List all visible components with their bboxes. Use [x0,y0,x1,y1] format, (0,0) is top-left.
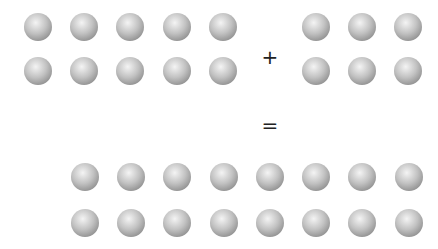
equals-sign: = [262,113,279,137]
sphere-addition-diagram: += [0,0,438,249]
right-addend-group [302,13,422,85]
sphere-icon [395,209,423,237]
sphere-icon [256,163,284,191]
sphere-icon [163,209,191,237]
sphere-icon [210,163,238,191]
sphere-icon [210,209,238,237]
plus-sign: + [262,45,279,69]
sphere-icon [256,209,284,237]
sphere-icon [348,57,376,85]
sum-group [71,163,423,237]
sphere-icon [116,13,144,41]
sphere-icon [394,13,422,41]
sphere-icon [302,163,330,191]
sphere-icon [71,209,99,237]
sphere-icon [302,13,330,41]
sphere-icon [394,57,422,85]
sphere-icon [348,209,376,237]
sphere-icon [116,57,144,85]
sphere-icon [348,163,376,191]
sphere-icon [24,13,52,41]
sphere-icon [302,57,330,85]
sphere-icon [395,163,423,191]
left-addend-group [24,13,237,85]
sphere-icon [348,13,376,41]
sphere-icon [24,57,52,85]
sphere-icon [163,57,191,85]
sphere-icon [70,13,98,41]
sphere-icon [70,57,98,85]
sphere-icon [71,163,99,191]
sphere-icon [117,209,145,237]
sphere-icon [209,57,237,85]
sphere-icon [117,163,145,191]
sphere-icon [302,209,330,237]
sphere-icon [163,13,191,41]
sphere-icon [163,163,191,191]
sphere-icon [209,13,237,41]
